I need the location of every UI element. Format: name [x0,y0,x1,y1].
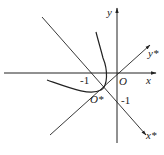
x-star-axis [42,17,146,135]
x-star-label: x* [145,129,157,141]
origin-label: O [119,75,127,87]
coordinate-diagram: y x O -1 -1 O* y* x* [0,0,164,155]
y-star-label: y* [147,47,159,59]
x-axis-label: x [145,74,151,86]
x-tick-label: -1 [80,74,89,86]
y-tick-label: -1 [121,94,130,106]
origin-star-label: O* [90,93,104,105]
y-axis-label: y [106,6,112,18]
parabola-curve [47,32,107,92]
